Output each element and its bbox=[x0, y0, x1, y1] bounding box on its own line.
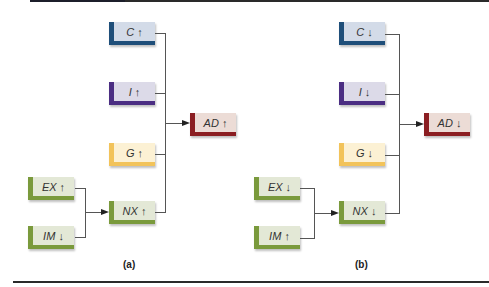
box-label: EX ↓ bbox=[259, 177, 300, 196]
box-label: I ↓ bbox=[344, 82, 385, 101]
box-government: G ↑ bbox=[109, 143, 155, 166]
connector-line bbox=[75, 188, 85, 189]
box-aggregate-demand: AD ↓ bbox=[424, 113, 470, 136]
box-consumption: C ↑ bbox=[109, 22, 155, 45]
accent-bar bbox=[339, 101, 385, 105]
box-investment: I ↓ bbox=[339, 82, 385, 105]
connector-line bbox=[399, 124, 417, 125]
connector-line bbox=[155, 93, 165, 94]
box-consumption: C ↓ bbox=[339, 22, 385, 45]
box-label: NX ↑ bbox=[114, 201, 155, 220]
panel-label: (a) bbox=[123, 259, 135, 270]
accent-bar bbox=[109, 220, 155, 224]
box-imports: IM ↓ bbox=[28, 226, 74, 249]
panel-label: (b) bbox=[355, 259, 368, 270]
box-label: G ↑ bbox=[114, 143, 155, 162]
box-label: IM ↓ bbox=[33, 226, 74, 245]
connector-line bbox=[155, 212, 165, 213]
box-label: NX ↓ bbox=[344, 201, 385, 220]
connector-line bbox=[155, 154, 165, 155]
connector-line bbox=[165, 123, 183, 124]
box-label: AD ↑ bbox=[195, 113, 236, 132]
connector-line bbox=[385, 94, 399, 95]
accent-bar bbox=[109, 162, 155, 166]
connector-line bbox=[75, 237, 85, 238]
box-label: G ↓ bbox=[344, 143, 385, 162]
accent-bar bbox=[109, 101, 155, 105]
box-investment: I ↑ bbox=[109, 82, 155, 105]
box-imports: IM ↑ bbox=[254, 226, 300, 249]
arrow-head-icon bbox=[101, 209, 109, 215]
accent-bar bbox=[424, 132, 470, 136]
connector-line bbox=[300, 188, 314, 189]
top-rule-accent bbox=[30, 0, 125, 2]
box-label: I ↑ bbox=[114, 82, 155, 101]
arrow-head-icon bbox=[182, 120, 190, 126]
connector-line bbox=[85, 188, 86, 238]
accent-bar bbox=[339, 41, 385, 45]
box-government: G ↓ bbox=[339, 143, 385, 166]
box-aggregate-demand: AD ↑ bbox=[190, 113, 236, 136]
connector-line bbox=[385, 34, 399, 35]
accent-bar bbox=[190, 132, 236, 136]
connector-line bbox=[300, 238, 314, 239]
connector-line bbox=[155, 33, 165, 34]
connector-line bbox=[385, 213, 399, 214]
box-label: C ↑ bbox=[114, 22, 155, 41]
box-label: IM ↑ bbox=[259, 226, 300, 245]
accent-bar bbox=[339, 162, 385, 166]
box-net-exports: NX ↓ bbox=[339, 201, 385, 224]
box-label: AD ↓ bbox=[429, 113, 470, 132]
box-net-exports: NX ↑ bbox=[109, 201, 155, 224]
accent-bar bbox=[254, 245, 300, 249]
box-label: C ↓ bbox=[344, 22, 385, 41]
connector-line bbox=[314, 213, 332, 214]
arrow-head-icon bbox=[416, 121, 424, 127]
accent-bar bbox=[254, 196, 300, 200]
connector-line bbox=[385, 155, 399, 156]
box-exports: EX ↓ bbox=[254, 177, 300, 200]
accent-bar bbox=[28, 245, 74, 249]
accent-bar bbox=[339, 220, 385, 224]
connector-line bbox=[85, 212, 102, 213]
accent-bar bbox=[109, 41, 155, 45]
accent-bar bbox=[28, 196, 74, 200]
box-label: EX ↑ bbox=[33, 177, 74, 196]
arrow-head-icon bbox=[331, 210, 339, 216]
box-exports: EX ↑ bbox=[28, 177, 74, 200]
bottom-rule bbox=[13, 281, 489, 283]
